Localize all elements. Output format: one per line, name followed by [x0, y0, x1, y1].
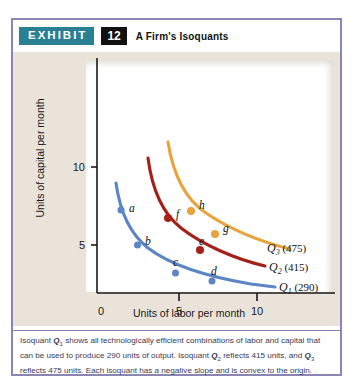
xtick-label-10: 10	[251, 305, 263, 317]
caption-q3-sub: 3	[311, 356, 314, 362]
point-g-marker	[211, 230, 219, 238]
point-d-marker	[209, 278, 216, 285]
point-label-c: c	[173, 256, 178, 268]
x-axis-label: Units of labor per month	[133, 307, 245, 319]
point-a-marker	[118, 207, 125, 214]
isoquant-chart: 10 5 0 5 10 a b c d	[13, 52, 340, 326]
point-label-g: g	[223, 222, 229, 235]
point-label-e: e	[199, 235, 204, 247]
caption-text-part4: reflects 475 units. Each isoquant has a …	[20, 366, 312, 375]
point-label-b: b	[145, 235, 151, 247]
curve-label-q2: Q2 (415)	[269, 260, 309, 276]
exhibit-caption: Isoquant Q1 shows all technologically ef…	[13, 330, 340, 376]
point-label-h: h	[199, 199, 205, 211]
exhibit-label-badge: EXHIBIT	[19, 27, 94, 45]
exhibit-number-badge: 12	[101, 27, 126, 45]
curve-q3: h g Q3 (475)	[168, 142, 307, 257]
exhibit-frame: EXHIBIT 12 A Firm's Isoquants 10 5 0 5 1…	[11, 18, 342, 376]
point-f-marker	[164, 214, 172, 222]
curve-q1: a b c d Q1 (290)	[116, 183, 319, 296]
y-axis-label: Units of capital per month	[34, 68, 46, 248]
caption-text-part1: Isoquant	[20, 336, 53, 345]
exhibit-title: A Firm's Isoquants	[136, 31, 229, 42]
point-h-marker	[187, 207, 195, 215]
ytick-label-10: 10	[73, 161, 85, 173]
point-label-a: a	[129, 202, 135, 214]
point-label-f: f	[176, 208, 181, 221]
chart-panel: 10 5 0 5 10 a b c d	[13, 52, 340, 326]
ytick-label-5: 5	[79, 239, 85, 251]
xtick-label-0: 0	[98, 305, 104, 317]
exhibit-header: EXHIBIT 12 A Firm's Isoquants	[13, 20, 340, 52]
point-c-marker	[172, 270, 179, 277]
point-e-marker	[196, 246, 204, 254]
curve-label-q3: Q3 (475)	[267, 241, 307, 257]
caption-text-part3: reflects 415 units, and	[221, 351, 305, 360]
point-b-marker	[134, 242, 141, 249]
point-label-d: d	[211, 265, 217, 277]
